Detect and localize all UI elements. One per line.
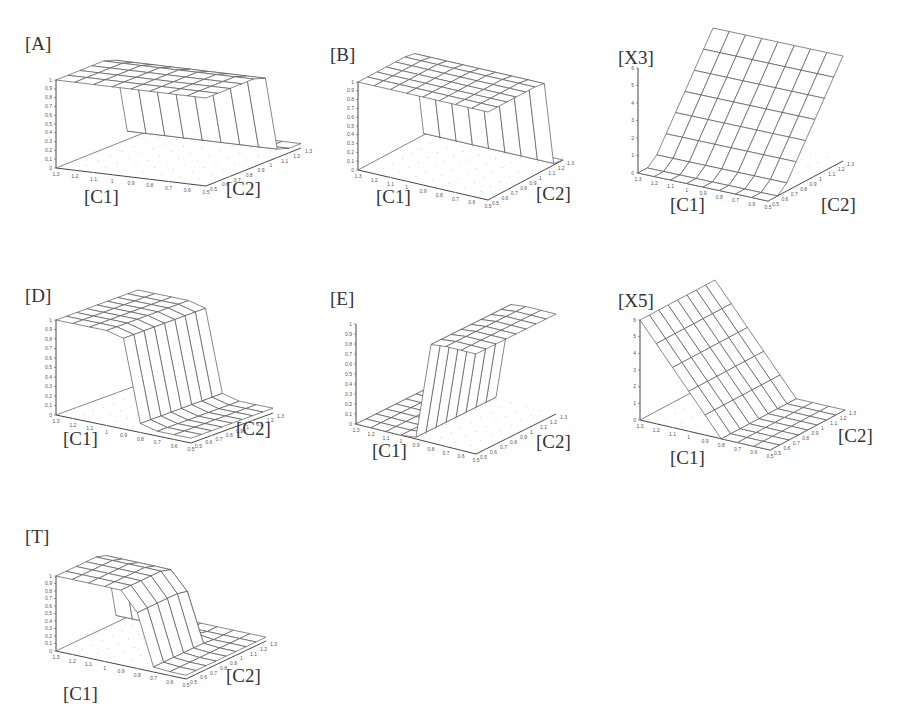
floor-grid-dot [476, 454, 477, 455]
c1-tick-label: 1 [687, 434, 690, 440]
floor-grid-dot [206, 669, 207, 670]
floor-grid-dot [211, 174, 212, 175]
z-tick-label: 0.6 [45, 355, 52, 361]
z-tick-label: 0.8 [45, 588, 52, 594]
floor-grid-dot [668, 405, 669, 406]
floor-grid-dot [691, 417, 692, 418]
c1-tick-label: 0.5 [473, 457, 480, 463]
floor-grid-dot [239, 153, 240, 154]
z-tick-label: 0.5 [45, 121, 52, 127]
c1-tick-label: 0.6 [171, 443, 178, 449]
floor-grid-dot [273, 413, 274, 414]
c1-tick-label: 0.5 [767, 453, 774, 459]
c2-tick-label: 0.6 [205, 439, 212, 445]
z-tick-label: 0.2 [45, 393, 52, 399]
floor-grid-dot [88, 658, 89, 659]
z-tick-label: 0 [349, 421, 352, 427]
z-tick-label: 0.1 [345, 411, 352, 417]
floor-grid-dot [528, 166, 529, 167]
c1-tick-label: 1 [103, 665, 106, 671]
c1-tick-label: 0.7 [452, 196, 459, 202]
c1-tick-label: 0.6 [166, 679, 173, 685]
floor-grid-dot [141, 655, 142, 656]
panel-B: 00.10.20.30.40.50.60.70.80.911.31.21.110… [318, 20, 608, 250]
z-tick-label: 0.8 [45, 94, 52, 100]
c1-tick-label: 0.9 [413, 442, 420, 448]
c2-tick-label: 0.9 [258, 167, 265, 173]
floor-grid-dot [97, 400, 98, 401]
c1-tick-label: 0.5 [765, 204, 772, 210]
z-tick-label: 0.3 [45, 383, 52, 389]
floor-grid-dot [491, 412, 492, 413]
c2-tick-label: 0.5 [190, 679, 197, 685]
floor-grid-dot [201, 439, 202, 440]
floor-grid-dot [234, 164, 235, 165]
z-tick-label: 0.6 [45, 603, 52, 609]
floor-grid-dot [446, 147, 447, 148]
z-tick-label: 2 [631, 135, 634, 141]
z-tick-label: 0.9 [347, 87, 354, 93]
floor-grid-dot [665, 418, 666, 419]
floor-grid-dot [171, 151, 172, 152]
floor-grid-dot [521, 157, 522, 158]
floor-grid-dot [256, 645, 257, 646]
floor-grid-dot [466, 436, 467, 437]
floor-grid-dot [134, 647, 135, 648]
c1-tick-label: 0.5 [188, 446, 195, 452]
floor-grid-dot [402, 158, 403, 159]
floor-grid-dot [546, 419, 547, 420]
floor-grid-dot [142, 172, 143, 173]
z-tick-label: 2 [633, 383, 636, 389]
floor-grid-dot [467, 173, 468, 174]
z-tick-label: 5 [633, 333, 636, 339]
floor-grid-dot [241, 171, 242, 172]
floor-grid-dot [277, 157, 278, 158]
floor-grid-dot [490, 186, 491, 187]
c1-tick-label: 0.5 [203, 189, 210, 195]
floor-grid-dot [464, 187, 465, 188]
floor-grid-dot [140, 432, 141, 433]
c1-tick-label: 1.3 [355, 173, 362, 179]
z-tick-label: 4 [633, 350, 636, 356]
floor-grid-dot [471, 445, 472, 446]
c1-tick-label: 1 [105, 429, 108, 435]
floor-grid-dot [471, 196, 472, 197]
z-tick-label: 0 [49, 412, 52, 418]
floor-grid-dot [504, 153, 505, 154]
z-tick-label: 0.1 [347, 158, 354, 164]
z-tick-label: 0.2 [45, 633, 52, 639]
floor-grid-dot [79, 158, 80, 159]
z-tick-label: 0.3 [45, 138, 52, 144]
c2-tick-label: 1.3 [560, 414, 567, 420]
floor-grid-dot [98, 160, 99, 161]
floor-grid-dot [221, 150, 222, 151]
floor-grid-dot [217, 181, 218, 182]
z-tick-label: 0.6 [347, 114, 354, 120]
c1-tick-label: 0.8 [718, 442, 725, 448]
floor-grid-dot [502, 167, 503, 168]
floor-grid-dot [453, 156, 454, 157]
c1-tick-label: 0.7 [150, 675, 157, 681]
z-tick-label: 0.5 [347, 123, 354, 129]
floor-grid-dot [423, 135, 424, 136]
c2-tick-label: 1.3 [847, 161, 854, 167]
c1-tick-label: 0.8 [137, 436, 144, 442]
floor-grid-dot [511, 162, 512, 163]
z-tick-label: 0.7 [45, 345, 52, 351]
floor-grid-dot [91, 153, 92, 154]
floor-grid-dot [537, 161, 538, 162]
floor-grid-dot [483, 177, 484, 178]
z-tick-label: 0.2 [347, 149, 354, 155]
c2-tick-label: 0.8 [510, 439, 517, 445]
c2-tick-label: 1 [539, 175, 542, 181]
floor-grid-dot [805, 181, 806, 182]
z-tick-label: 0 [49, 165, 52, 171]
axis-label-c2-X5: [C2] [838, 425, 873, 447]
c1-tick-label: 0.6 [750, 449, 757, 455]
floor-grid-dot [196, 674, 197, 675]
c2-tick-label: 1.3 [277, 413, 284, 419]
floor-grid-dot [516, 434, 517, 435]
floor-grid-dot [246, 160, 247, 161]
floor-grid-dot [476, 431, 477, 432]
c1-tick-label: 0.7 [732, 197, 739, 203]
